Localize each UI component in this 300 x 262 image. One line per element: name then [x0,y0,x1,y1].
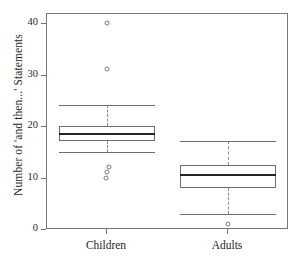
whisker-cap-lower [59,152,155,153]
outlier-point [105,67,110,72]
whisker-lower [107,141,108,151]
median-line-children [59,133,155,135]
whisker-cap-upper [59,105,155,106]
x-axis-labels: Children Adults [46,239,288,257]
y-tick-label-20: 20 [28,119,39,130]
y-tick-label-0: 0 [33,222,38,233]
x-tick-adults [227,229,228,234]
x-tick-children [106,229,107,234]
whisker-upper [107,105,108,126]
boxplot-figure: Number of 'and then...' Statements 40 30… [0,0,300,262]
whisker-upper [228,141,229,164]
x-axis-ticks [46,229,288,237]
outlier-point [226,221,231,226]
x-label-adults: Adults [212,239,243,251]
y-tick-label-30: 30 [28,68,39,79]
plot-area [47,14,287,228]
y-axis-ticks: 40 30 20 10 0 [0,0,46,262]
whisker-cap-lower [180,214,276,215]
whisker-cap-upper [180,141,276,142]
outlier-point [103,175,108,180]
x-label-children: Children [86,239,126,251]
outlier-point [105,21,110,26]
y-tick-label-10: 10 [28,171,39,182]
plot-frame [46,13,288,229]
y-tick-label-40: 40 [28,16,39,27]
whisker-lower [228,188,229,214]
box-adults [180,165,276,188]
median-line-adults [180,174,276,176]
